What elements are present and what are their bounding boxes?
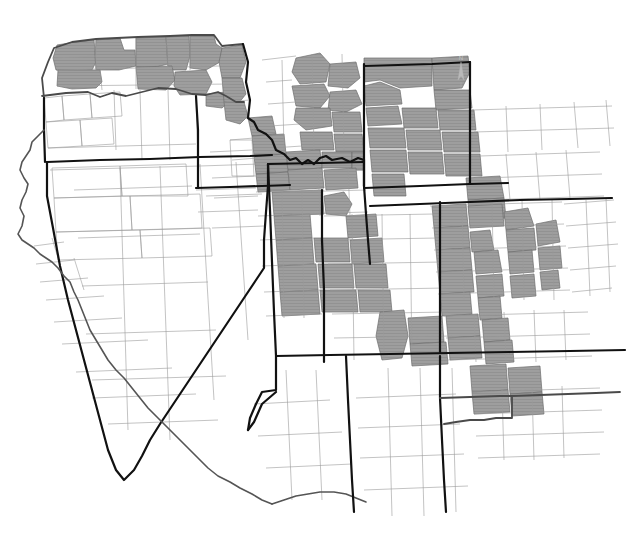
county-shaded [314,238,350,262]
county-shaded [408,316,444,344]
county-shaded [370,150,408,172]
western-us-county-map: N [0,0,633,543]
county-shaded [136,37,168,68]
county-shaded [442,132,480,152]
county-shaded [472,390,510,414]
county-shaded [406,130,442,150]
north-arrow-label: N [459,55,463,61]
county-shaded [324,168,358,190]
county-shaded [278,264,318,292]
county-shaded [276,238,314,266]
county-shaded [320,290,358,312]
county-shaded [358,290,392,312]
county-shaded [346,214,378,238]
county-shaded [466,176,504,200]
county-shaded [438,270,474,294]
county-shaded [292,53,330,84]
county-shaded [372,174,406,196]
county-shaded [506,228,536,252]
county-shaded [540,270,560,290]
county-shaded [408,152,444,174]
county-shaded [219,45,246,78]
county-shaded [334,134,364,152]
county-shaded [256,172,290,192]
county-shaded [174,70,212,95]
county-shaded [448,336,482,360]
county-shaded [350,238,384,264]
county-shaded [376,310,408,360]
county-shaded [436,248,472,272]
county-shaded [368,128,406,148]
county-shaded [476,274,504,298]
map-canvas: N Selected counties Other counties [0,0,633,543]
county-shaded [538,246,562,270]
county-shaded [274,214,312,240]
county-shaded [402,108,438,128]
county-shaded [482,318,510,342]
county-shaded [300,132,334,150]
county-shaded [478,296,502,320]
county-shaded [444,154,482,176]
county-shaded [470,364,508,392]
county-shaded [440,292,472,316]
county-shaded [468,204,504,228]
county-shaded [536,220,560,246]
county-shaded [332,112,362,132]
county-shaded [166,36,190,70]
county-shaded [366,106,402,126]
county-shaded [280,290,320,316]
county-shaded [510,274,536,298]
county-shaded [272,190,324,216]
county-shaded [508,250,534,274]
county-shaded [136,66,175,90]
county-shaded [434,90,472,110]
